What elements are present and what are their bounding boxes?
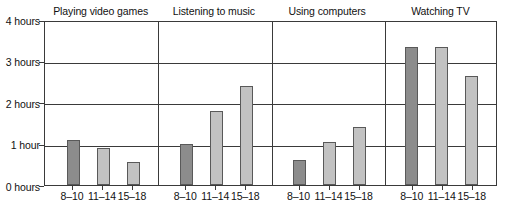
- x-axis-label-15-18: 15–18: [111, 190, 153, 203]
- panel-title-playing-video-games: Playing video games: [44, 4, 157, 18]
- bar-listening-to-music-11-14: [210, 111, 223, 185]
- y-axis-label-4: 4 hours: [0, 16, 40, 26]
- bar-listening-to-music-8-10: [180, 144, 193, 185]
- panel-title-using-computers: Using computers: [271, 4, 384, 18]
- x-axis-group-using-computers: 8–10 11–14 15–18: [271, 190, 384, 206]
- bar-group-listening-to-music: [158, 22, 271, 185]
- y-axis-label-0: 0 hours: [0, 182, 40, 192]
- bar-group-using-computers: [271, 22, 384, 185]
- bar-watching-tv-8-10: [405, 47, 418, 185]
- x-axis-group-listening-to-music: 8–10 11–14 15–18: [157, 190, 270, 206]
- bar-playing-video-games-11-14: [97, 148, 110, 185]
- x-axis-group-playing-video-games: 8–10 11–14 15–18: [44, 190, 157, 206]
- panel-title-row: Playing video games Listening to music U…: [44, 4, 497, 18]
- bars-layer: [45, 22, 496, 185]
- chart-title: [0, 0, 508, 1]
- bar-using-computers-8-10: [293, 160, 306, 185]
- y-axis-label-3: 3 hours: [0, 57, 40, 67]
- y-axis-label-2: 2 hours: [0, 99, 40, 109]
- bar-playing-video-games-8-10: [67, 140, 80, 185]
- grouped-bar-chart: Playing video games Listening to music U…: [0, 0, 508, 209]
- y-tick-0: [39, 186, 44, 187]
- bar-group-playing-video-games: [45, 22, 158, 185]
- x-axis: 8–10 11–14 15–18 8–10 11–14 15–18 8–10 1…: [44, 190, 497, 206]
- bar-using-computers-15-18: [353, 127, 366, 185]
- plot-area: [44, 21, 497, 186]
- bar-using-computers-11-14: [323, 142, 336, 185]
- bar-playing-video-games-15-18: [127, 162, 140, 185]
- x-axis-label-15-18: 15–18: [224, 190, 266, 203]
- y-axis-label-1: 1 hour: [0, 140, 40, 150]
- bar-watching-tv-11-14: [435, 47, 448, 185]
- panel-title-listening-to-music: Listening to music: [157, 4, 270, 18]
- panel-title-watching-tv: Watching TV: [384, 4, 497, 18]
- x-axis-label-15-18: 15–18: [451, 190, 493, 203]
- x-axis-group-watching-tv: 8–10 11–14 15–18: [384, 190, 497, 206]
- y-axis: 4 hours 3 hours 2 hours 1 hour 0 hours: [0, 0, 40, 209]
- bar-listening-to-music-15-18: [240, 86, 253, 185]
- bar-watching-tv-15-18: [465, 76, 478, 185]
- x-axis-label-15-18: 15–18: [338, 190, 380, 203]
- bar-group-watching-tv: [383, 22, 496, 185]
